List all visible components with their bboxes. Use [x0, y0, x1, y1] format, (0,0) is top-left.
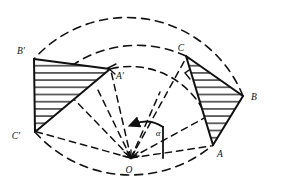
diagram-canvas: B′ C′ A′ C B A O α [0, 0, 281, 179]
triangle-image-fill [34, 59, 110, 132]
radial-line-o-to-a-prime [111, 71, 131, 158]
triangle-a-prime-b-prime-c-prime [34, 59, 110, 132]
label-b: B [251, 92, 257, 102]
label-a-prime: A′ [115, 71, 125, 81]
label-a: A [216, 149, 223, 159]
label-b-prime: B′ [17, 46, 26, 56]
triangle-abc [186, 56, 243, 145]
radial-line-o-extra-right [131, 92, 160, 158]
radial-line-o-to-c [131, 58, 186, 158]
label-c-prime: C′ [12, 131, 21, 141]
label-c: C [178, 43, 185, 53]
radial-line-o-to-c-prime [37, 132, 131, 158]
radial-line-o-extra-left [96, 86, 131, 158]
rotation-diagram: B′ C′ A′ C B A O α [0, 0, 281, 179]
label-angle-alpha: α [156, 128, 161, 138]
label-centre-o: O [126, 165, 133, 175]
triangle-source-fill [186, 56, 243, 145]
